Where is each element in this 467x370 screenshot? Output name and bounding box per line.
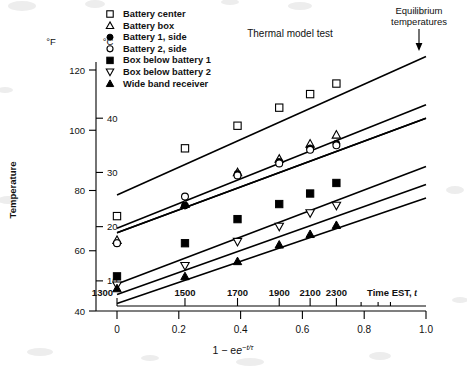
speckle (288, 2, 312, 10)
data-point-open-triangle-down (275, 223, 283, 231)
data-point-open-circle (114, 240, 121, 247)
data-point-filled-square (333, 179, 340, 186)
data-point-filled-square (113, 273, 120, 280)
y-tick-label-c: 20 (107, 221, 118, 232)
y-unit-fahrenheit: °F (46, 36, 56, 47)
annotation-arrow-head (416, 43, 423, 51)
speckle (236, 358, 264, 366)
x-tick-label: 0 (114, 324, 120, 335)
time-tick-label: 2300 (326, 287, 347, 298)
data-point-open-triangle-down (233, 238, 241, 246)
x-tick-label: 0.8 (357, 324, 371, 335)
thermal-model-test-chart: 12010080604040302010°F°CTemperature00.20… (0, 0, 467, 370)
annotation-line-1: Equilibrium (396, 5, 443, 16)
data-point-open-square (306, 90, 313, 97)
time-axis-title: Time EST, t (367, 287, 417, 298)
time-axis: 130015001700190021002300Time EST, t (92, 287, 426, 306)
legend-label-3: Battery 2, side (123, 44, 187, 54)
x-tick-label: 0.2 (172, 324, 186, 335)
data-point-open-circle (333, 142, 340, 149)
data-point-filled-triangle-up (332, 221, 340, 229)
data-point-open-square (113, 212, 120, 219)
legend-label-6: Wide band receiver (123, 79, 209, 89)
speckle (85, 0, 105, 8)
time-tick-label: 1700 (227, 287, 248, 298)
series-5 (113, 184, 426, 294)
time-tick-label: 1300 (92, 287, 113, 298)
annotation-line-2: temperatures (391, 16, 447, 27)
data-point-open-square (107, 11, 113, 17)
data-point-filled-square (107, 57, 113, 63)
series-1 (113, 105, 426, 244)
axes: 12010080604040302010°F°CTemperature00.20… (7, 36, 433, 356)
x-tick-label: 0.4 (234, 324, 248, 335)
y-tick-label-c: 30 (107, 167, 118, 178)
trend-line (117, 56, 426, 195)
y-tick-label-f: 120 (69, 65, 85, 76)
series-3 (114, 118, 426, 246)
y-tick-label-c: 40 (107, 113, 118, 124)
speckle (446, 186, 464, 194)
series-layer (113, 56, 426, 303)
data-point-open-triangle-up (106, 22, 113, 29)
data-point-open-square (234, 122, 241, 129)
series-2 (114, 118, 426, 246)
data-point-open-circle (276, 160, 283, 167)
speckle (27, 348, 53, 356)
data-point-open-square (333, 80, 340, 87)
data-point-filled-square (181, 240, 188, 247)
y-tick-label-f: 100 (69, 125, 85, 136)
data-point-open-triangle-down (306, 210, 314, 218)
data-point-open-square (181, 145, 188, 152)
legend-label-5: Box below battery 2 (123, 67, 211, 77)
data-point-filled-square (234, 215, 241, 222)
data-point-filled-square (306, 190, 313, 197)
y-axis-title: Temperature (7, 162, 18, 219)
time-tick-label: 1500 (174, 287, 195, 298)
legend-label-0: Battery center (123, 9, 186, 19)
y-tick-label-f: 60 (74, 245, 85, 256)
time-tick-label: 1900 (269, 287, 290, 298)
data-point-open-circle (107, 46, 113, 52)
trend-line (117, 105, 426, 229)
speckle (0, 87, 13, 93)
chart-canvas: 12010080604040302010°F°CTemperature00.20… (0, 0, 467, 370)
data-point-open-square (276, 104, 283, 111)
speckle (221, 0, 239, 5)
trend-line (117, 184, 426, 294)
x-tick-label: 1.0 (419, 324, 433, 335)
data-point-filled-triangle-up (106, 80, 113, 87)
data-point-filled-square (276, 200, 283, 207)
data-point-open-triangle-down (332, 202, 340, 210)
trend-line (117, 166, 426, 283)
speckle (369, 352, 391, 360)
trend-line (117, 118, 426, 232)
data-point-open-circle (182, 193, 189, 200)
chart-title: Thermal model test (247, 28, 333, 39)
data-point-filled-triangle-up (306, 230, 314, 238)
data-point-filled-circle (107, 34, 113, 40)
data-point-filled-triangle-up (275, 241, 283, 249)
data-point-open-triangle-up (332, 131, 340, 139)
speckle (141, 355, 159, 361)
y-tick-label-f: 80 (74, 185, 85, 196)
y-tick-label-f: 40 (74, 306, 85, 317)
series-4 (113, 166, 426, 283)
legend-label-2: Battery 1, side (123, 32, 187, 42)
legend-label-4: Box below battery 1 (123, 55, 211, 65)
equilibrium-annotation: Equilibriumtemperatures (391, 5, 447, 51)
data-point-open-triangle-down (106, 69, 113, 76)
data-point-open-circle (234, 172, 241, 179)
data-point-filled-triangle-up (181, 272, 189, 280)
legend: Battery centerBattery boxBattery 1, side… (106, 9, 211, 89)
legend-label-1: Battery box (123, 21, 175, 31)
data-point-open-circle (307, 146, 314, 153)
x-tick-label: 0.6 (295, 324, 309, 335)
time-tick-label: 2100 (300, 287, 321, 298)
speckle (452, 297, 467, 303)
x-axis-title: 1 − ee−t/τ (213, 343, 255, 357)
speckle (8, 1, 36, 11)
